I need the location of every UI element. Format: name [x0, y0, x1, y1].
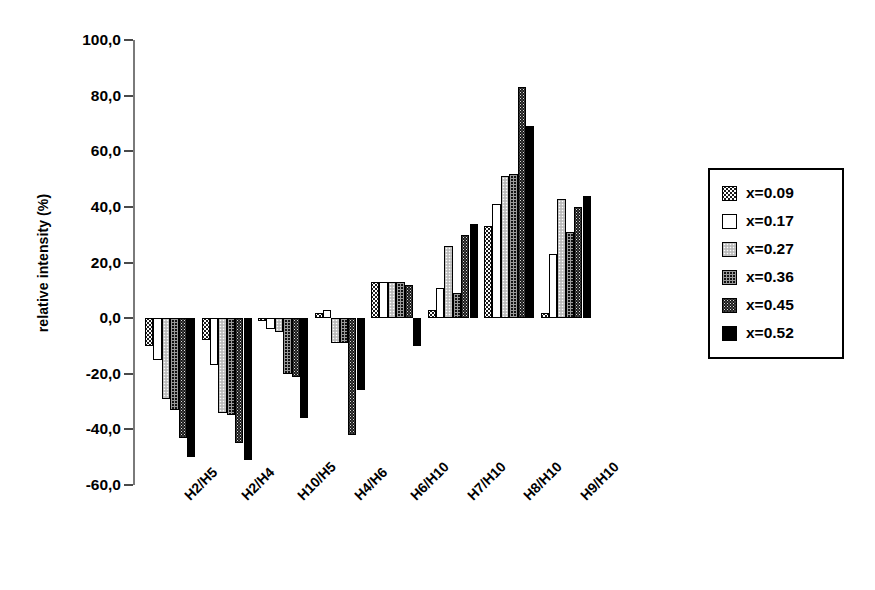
bar: [371, 282, 379, 318]
bar: [405, 285, 413, 318]
bar: [484, 226, 492, 318]
bar: [541, 313, 549, 319]
bar-group: [202, 40, 252, 485]
bar: [509, 174, 517, 319]
bar-chart: relative intensity (%) 100,080,060,040,0…: [0, 0, 875, 590]
y-axis-tick: [124, 206, 133, 208]
bar: [218, 318, 226, 413]
bar: [331, 318, 339, 343]
bar: [396, 282, 404, 318]
y-axis-title: relative intensity (%): [35, 158, 51, 368]
bar: [340, 318, 348, 343]
bar: [153, 318, 161, 360]
bar: [170, 318, 178, 410]
bar: [444, 246, 452, 318]
legend-swatch-icon: [722, 270, 737, 285]
bar: [428, 310, 436, 318]
bar: [300, 318, 308, 418]
y-axis-tick-label: 40,0: [91, 198, 121, 216]
bar-group: [315, 40, 365, 485]
bar: [235, 318, 243, 443]
bar: [461, 235, 469, 318]
legend-item-label: x=0.45: [746, 296, 794, 314]
bar: [518, 87, 526, 318]
y-axis-tick: [124, 262, 133, 264]
bar: [162, 318, 170, 399]
y-axis-tick-label: 80,0: [91, 87, 121, 105]
bar: [470, 224, 478, 319]
legend-item-label: x=0.27: [746, 240, 794, 258]
y-axis-tick-label: -40,0: [86, 420, 121, 438]
legend-swatch-icon: [722, 186, 737, 201]
y-axis-line: [133, 40, 135, 485]
bar-group: [428, 40, 478, 485]
y-axis-tick: [124, 150, 133, 152]
bar: [202, 318, 210, 340]
plot-area: 100,080,060,040,020,00,0-20,0-40,0-60,0: [133, 40, 600, 485]
bar: [266, 318, 274, 329]
bar-group: [371, 40, 421, 485]
legend: x=0.09x=0.17x=0.27x=0.36x=0.45x=0.52: [708, 168, 844, 359]
legend-swatch-icon: [722, 326, 737, 341]
bar: [348, 318, 356, 435]
legend-item: x=0.27: [722, 235, 832, 263]
bar: [379, 282, 387, 318]
bar: [187, 318, 195, 457]
legend-item-label: x=0.17: [746, 212, 794, 230]
bar: [583, 196, 591, 318]
legend-item: x=0.36: [722, 263, 832, 291]
bar: [292, 318, 300, 376]
legend-swatch-icon: [722, 242, 737, 257]
y-axis-tick-label: -20,0: [86, 365, 121, 383]
bar: [323, 310, 331, 318]
bar: [258, 318, 266, 321]
bar-group: [541, 40, 591, 485]
bar: [574, 207, 582, 318]
bar: [210, 318, 218, 365]
bar-group: [145, 40, 195, 485]
bar: [501, 176, 509, 318]
y-axis-tick-label: 20,0: [91, 254, 121, 272]
bar: [453, 293, 461, 318]
y-axis-tick: [124, 95, 133, 97]
bar: [357, 318, 365, 390]
y-axis-tick: [124, 373, 133, 375]
bar: [388, 282, 396, 318]
bar: [526, 126, 534, 318]
bar: [315, 313, 323, 319]
bar: [413, 318, 421, 346]
legend-item-label: x=0.09: [746, 184, 794, 202]
bar-group: [258, 40, 308, 485]
y-axis-tick-label: 100,0: [82, 31, 121, 49]
bar-group: [484, 40, 534, 485]
bar: [227, 318, 235, 415]
bar: [275, 318, 283, 332]
legend-item: x=0.52: [722, 319, 832, 347]
y-axis-tick: [124, 39, 133, 41]
y-axis-tick: [124, 484, 133, 486]
bar: [557, 199, 565, 319]
y-axis-tick: [124, 428, 133, 430]
bar: [436, 288, 444, 319]
y-axis-tick: [124, 317, 133, 319]
bar: [244, 318, 252, 460]
legend-item: x=0.17: [722, 207, 832, 235]
y-axis-tick-label: 60,0: [91, 142, 121, 160]
legend-swatch-icon: [722, 298, 737, 313]
legend-item-label: x=0.36: [746, 268, 794, 286]
y-axis-tick-label: -60,0: [86, 476, 121, 494]
legend-item: x=0.09: [722, 179, 832, 207]
legend-item: x=0.45: [722, 291, 832, 319]
bar: [145, 318, 153, 346]
legend-swatch-icon: [722, 214, 737, 229]
bar: [549, 254, 557, 318]
y-axis-tick-label: 0,0: [99, 309, 121, 327]
bar: [283, 318, 291, 374]
bar: [492, 204, 500, 318]
bar: [566, 232, 574, 318]
bar: [179, 318, 187, 438]
legend-item-label: x=0.52: [746, 324, 794, 342]
